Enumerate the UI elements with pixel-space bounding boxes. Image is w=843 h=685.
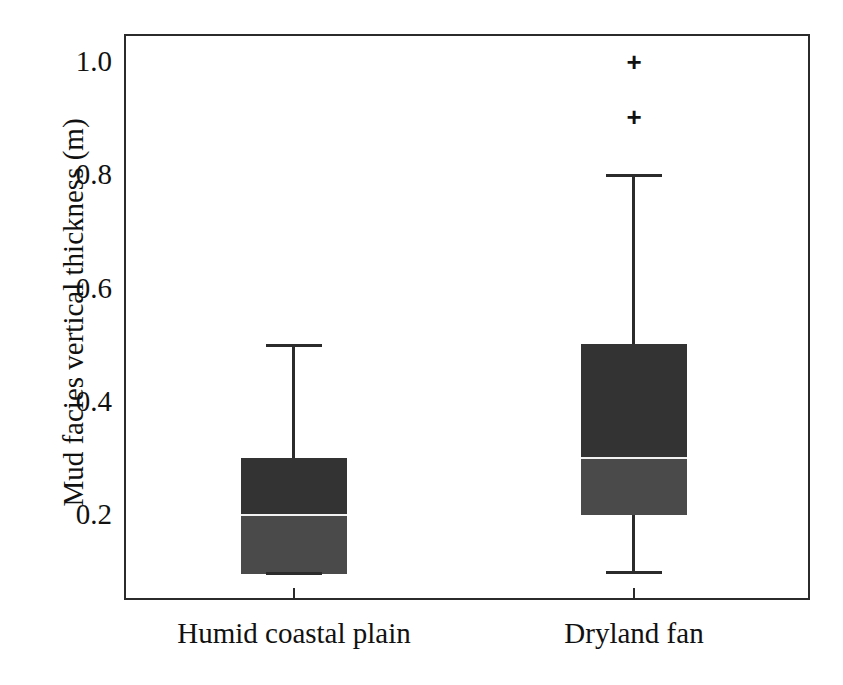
- box1-upper-quartile-region: [241, 458, 347, 515]
- box2-lower-whisker-cap: [606, 571, 662, 574]
- box-plot-figure: Mud facies vertical thickness (m) 1.0 0.…: [0, 0, 843, 685]
- y-tick-label-1-0: 1.0: [34, 47, 112, 76]
- box2-upper-whisker-cap: [606, 174, 662, 177]
- box2-upper-whisker-stem: [632, 175, 635, 345]
- box2-lower-whisker-stem: [632, 515, 635, 573]
- box1-lower-whisker-cap: [266, 572, 322, 575]
- box2-upper-quartile-region: [581, 344, 687, 458]
- x-tick-label-dryland-fan: Dryland fan: [484, 617, 784, 650]
- box2-lower-quartile-region: [581, 459, 687, 515]
- y-tick-label-0-4: 0.4: [34, 387, 112, 416]
- box1-upper-whisker-cap: [266, 344, 322, 347]
- y-tick-label-0-8: 0.8: [34, 160, 112, 189]
- y-tick-label-0-6: 0.6: [34, 274, 112, 303]
- x-tick-mark-humid-coastal-plain: [293, 588, 295, 600]
- box1-lower-quartile-region: [241, 516, 347, 574]
- plot-area: [124, 34, 810, 600]
- box2-outlier-marker-0-9: +: [626, 104, 641, 130]
- x-tick-label-humid-coastal-plain: Humid coastal plain: [144, 617, 444, 650]
- y-tick-label-0-2: 0.2: [34, 500, 112, 529]
- x-tick-mark-dryland-fan: [633, 588, 635, 600]
- box2-outlier-marker-1-0: +: [626, 49, 641, 75]
- box1-upper-whisker-stem: [292, 345, 295, 459]
